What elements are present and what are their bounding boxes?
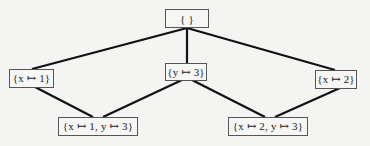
edge-y3-x2y3 <box>192 80 265 117</box>
edge-y3-x1y3 <box>103 80 182 117</box>
node-x-1: {x ↦ 1} <box>9 69 54 88</box>
edge-top-x2 <box>187 28 335 70</box>
edge-x1-x1y3 <box>35 87 93 117</box>
edge-x2-x2y3 <box>275 88 340 117</box>
edge-top-x1 <box>32 28 187 69</box>
node-x-1-y-3: {x ↦ 1, y ↦ 3} <box>58 117 138 136</box>
node-empty-set: { } <box>165 9 209 28</box>
node-y-3: {y ↦ 3} <box>165 63 207 81</box>
node-x-2: {x ↦ 2} <box>315 70 357 89</box>
node-x-2-y-3: {x ↦ 2, y ↦ 3} <box>228 117 308 136</box>
